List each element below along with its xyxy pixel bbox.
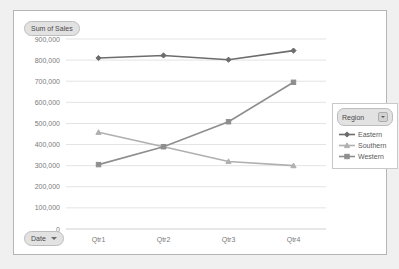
axis-field-button[interactable]: Date <box>24 231 64 246</box>
axis-field-label: Date <box>31 235 46 242</box>
y-axis-tick-label: 600,000 <box>35 99 60 106</box>
data-point-eastern-qtr2 <box>161 53 166 58</box>
x-axis-tick-label: Qtr2 <box>157 236 171 244</box>
legend-entry-label: Western <box>358 153 384 160</box>
data-point-western-qtr1 <box>96 162 100 166</box>
legend-entry[interactable]: Southern <box>337 140 393 151</box>
legend-marker-diamond-icon <box>338 130 356 139</box>
pivot-chart-frame: Sum of Sales 0100,000200,000300,000400,0… <box>13 10 387 255</box>
y-axis-tick-label: 500,000 <box>35 120 60 127</box>
legend-field-label: Region <box>342 114 364 121</box>
legend-entries: EasternSouthernWestern <box>337 129 393 162</box>
data-point-western-qtr3 <box>226 120 230 124</box>
data-point-eastern-qtr4 <box>291 48 296 53</box>
chevron-down-icon[interactable] <box>51 237 57 240</box>
data-point-western-qtr4 <box>291 80 295 84</box>
y-axis-tick-label: 100,000 <box>35 204 60 211</box>
legend-marker-triangle-icon <box>338 141 356 150</box>
y-axis-tick-label: 300,000 <box>35 162 60 169</box>
legend-marker-square-icon <box>338 152 356 161</box>
legend-entry[interactable]: Western <box>337 151 393 162</box>
data-point-eastern-qtr3 <box>226 57 231 62</box>
y-axis-tick-label: 200,000 <box>35 183 60 190</box>
series-line-eastern <box>99 51 294 60</box>
chart-legend: Region EasternSouthernWestern <box>332 103 398 169</box>
legend-field-button[interactable]: Region <box>337 108 393 126</box>
y-axis-tick-label: 900,000 <box>35 36 60 43</box>
data-point-southern-qtr3 <box>226 159 231 164</box>
x-axis-tick-label: Qtr4 <box>287 236 301 244</box>
series-line-southern <box>99 132 294 165</box>
data-point-western-qtr2 <box>161 144 165 148</box>
chevron-down-icon[interactable] <box>378 112 388 122</box>
y-axis-tick-label: 700,000 <box>35 78 60 85</box>
y-axis-tick-label: 400,000 <box>35 141 60 148</box>
data-point-southern-qtr1 <box>96 130 101 135</box>
x-axis-tick-label: Qtr1 <box>92 236 106 244</box>
y-axis-tick-label: 800,000 <box>35 57 60 64</box>
legend-entry[interactable]: Eastern <box>337 129 393 140</box>
legend-entry-label: Eastern <box>358 131 382 138</box>
x-axis-tick-label: Qtr3 <box>222 236 236 244</box>
data-point-southern-qtr4 <box>291 163 296 168</box>
legend-entry-label: Southern <box>358 142 386 149</box>
